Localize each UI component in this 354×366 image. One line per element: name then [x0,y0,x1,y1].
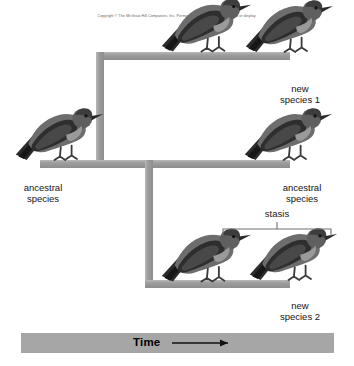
label-new-species-2-line2: species 2 [268,312,332,323]
bird-new-species-1 [246,0,333,52]
label-ancestral-right-line1: ancestral [265,183,339,194]
label-new-species-2-line1: new [268,301,332,312]
label-ancestral-left-line2: species [6,194,80,205]
label-new-species-2: new species 2 [268,301,332,322]
label-new-species-1: new species 1 [268,84,332,105]
bird-ancestral-right [245,108,332,160]
label-ancestral-species-left: ancestral species [6,183,80,204]
time-bar [21,333,334,353]
label-time: Time [133,336,160,348]
bird-ancestral-left [16,108,103,160]
label-ancestral-right-line2: species [265,194,339,205]
branch-trunk [40,160,290,168]
label-stasis: stasis [248,209,306,220]
figure-canvas: Copyright © The McGraw-Hill Companies, I… [0,0,354,366]
bird-stasis-left [162,229,251,282]
label-new-species-1-line1: new [268,84,332,95]
label-new-species-1-line2: species 1 [268,95,332,106]
bird-new-species-2 [250,228,337,280]
label-ancestral-species-right: ancestral species [265,183,339,204]
bird-top-branch [162,0,251,52]
label-ancestral-left-line1: ancestral [6,183,80,194]
